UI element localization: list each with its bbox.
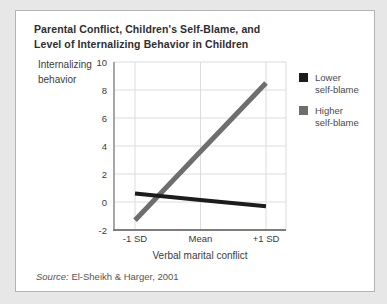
y-tick-label: 4 [102, 141, 107, 152]
line-chart-plot: -20246810-1 SDMean+1 SDVerbal marital co… [16, 11, 374, 291]
y-tick-label: 6 [102, 113, 107, 124]
x-tick-label: Mean [189, 233, 213, 244]
x-axis-label: Verbal marital conflict [152, 250, 247, 261]
lower-self-blame-swatch-icon [299, 73, 308, 82]
chart-legend: Lower self-blame Higher self-blame [299, 72, 359, 137]
higher-self-blame-swatch-icon [299, 106, 308, 115]
legend-item-higher-self-blame: Higher self-blame [299, 105, 359, 130]
page-background: { "page": { "background": "#e7e7e7" }, "… [0, 0, 387, 304]
y-tick-label: 8 [102, 85, 107, 96]
x-tick-label: +1 SD [253, 233, 280, 244]
legend-label-higher-self-blame: Higher self-blame [315, 105, 359, 130]
chart-card: Parental Conflict, Children's Self-Blame… [15, 10, 375, 292]
source-citation: Source: El-Sheikh & Harger, 2001 [36, 271, 179, 282]
x-tick-label: -1 SD [123, 233, 147, 244]
legend-item-lower-self-blame: Lower self-blame [299, 72, 359, 97]
y-tick-label: 0 [102, 197, 107, 208]
y-tick-label: 10 [96, 57, 107, 68]
legend-label-lower-self-blame: Lower self-blame [315, 72, 359, 97]
source-label: Source: [36, 271, 69, 282]
source-value: El-Sheikh & Harger, 2001 [71, 271, 178, 282]
y-tick-label: -2 [99, 225, 107, 236]
y-tick-label: 2 [102, 169, 107, 180]
